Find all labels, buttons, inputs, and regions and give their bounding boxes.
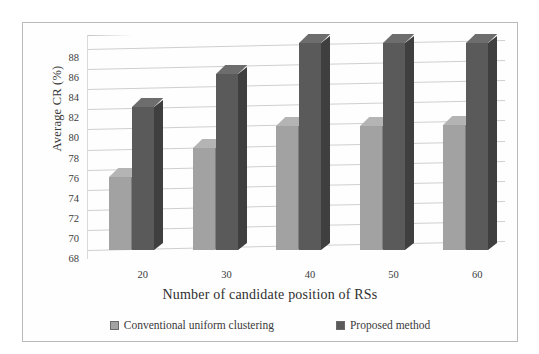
- x-axis-tick-labels: 2030405060: [87, 269, 505, 287]
- bar-side: [405, 36, 414, 250]
- bar-face: [443, 125, 465, 250]
- plot-area: [87, 35, 505, 259]
- x-tick-label: 50: [374, 269, 414, 281]
- bar-face: [299, 43, 321, 250]
- x-tick-label: 20: [123, 269, 163, 281]
- bar-face: [276, 126, 298, 250]
- light-gray-square-icon: [110, 321, 119, 330]
- chart-frame: Average CR (%) 6870727476788082848688 20…: [22, 22, 518, 342]
- legend-item-conventional[interactable]: Conventional uniform clustering: [110, 319, 274, 331]
- bar-side: [488, 36, 497, 250]
- bar-conventional-60[interactable]: [443, 125, 465, 250]
- bar-group: [338, 35, 422, 259]
- x-axis-title: Number of candidate position of RSs: [23, 287, 517, 303]
- y-tick-label: 70: [45, 234, 79, 244]
- y-tick-label: 74: [45, 194, 79, 204]
- bar-conventional-30[interactable]: [193, 148, 215, 250]
- bar-proposed-20[interactable]: [132, 107, 154, 250]
- bar-side: [321, 36, 330, 250]
- bar-proposed-50[interactable]: [383, 43, 405, 250]
- x-tick-label: 40: [290, 269, 330, 281]
- x-tick-label: 30: [206, 269, 246, 281]
- bar-face: [383, 43, 405, 250]
- bar-face: [216, 74, 238, 250]
- y-tick-label: 88: [45, 53, 79, 63]
- y-tick-label: 86: [45, 73, 79, 83]
- bar-group: [87, 35, 171, 259]
- bar-face: [360, 126, 382, 250]
- y-tick-label: 78: [45, 154, 79, 164]
- bar-conventional-50[interactable]: [360, 126, 382, 250]
- bar-proposed-60[interactable]: [466, 43, 488, 250]
- y-tick-label: 80: [45, 133, 79, 143]
- chart-legend: Conventional uniform clustering Proposed…: [23, 319, 517, 331]
- dark-gray-square-icon: [336, 321, 345, 330]
- x-tick-label: 60: [457, 269, 497, 281]
- bar-proposed-30[interactable]: [216, 74, 238, 250]
- bar-side: [238, 67, 247, 250]
- y-tick-label: 72: [45, 214, 79, 224]
- y-tick-label: 68: [45, 254, 79, 264]
- y-tick-label: 76: [45, 174, 79, 184]
- legend-item-proposed[interactable]: Proposed method: [336, 319, 430, 331]
- bar-group: [171, 35, 255, 259]
- bar-face: [193, 148, 215, 250]
- bar-proposed-40[interactable]: [299, 43, 321, 250]
- bar-face: [132, 107, 154, 250]
- bar-conventional-20[interactable]: [109, 177, 131, 250]
- y-tick-label: 82: [45, 113, 79, 123]
- bar-conventional-40[interactable]: [276, 126, 298, 250]
- bar-face: [466, 43, 488, 250]
- bar-face: [109, 177, 131, 250]
- bar-group: [254, 35, 338, 259]
- legend-label: Proposed method: [350, 319, 430, 331]
- legend-label: Conventional uniform clustering: [124, 319, 274, 331]
- chart-figure: Average CR (%) 6870727476788082848688 20…: [0, 0, 539, 354]
- bar-group: [421, 35, 505, 259]
- bar-side: [154, 100, 163, 250]
- bar-series-container: [87, 35, 505, 259]
- y-tick-label: 84: [45, 93, 79, 103]
